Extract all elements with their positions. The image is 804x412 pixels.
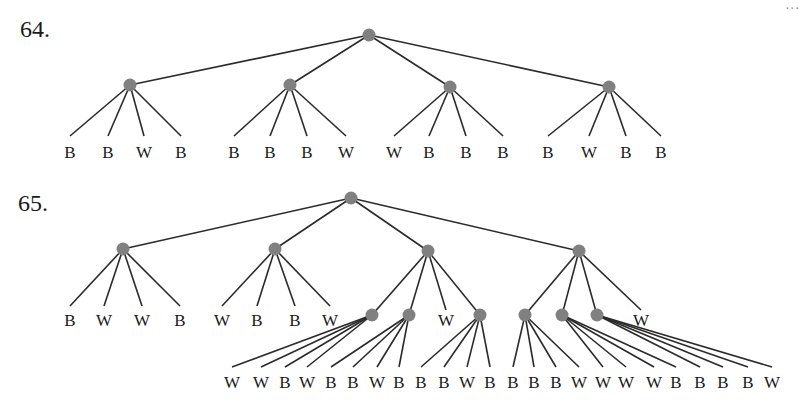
tree-node bbox=[345, 192, 358, 205]
tree-edge bbox=[369, 35, 609, 87]
page-corner-mark: ... bbox=[786, 0, 800, 12]
leaf-label: W bbox=[386, 144, 402, 161]
leaf-label: B bbox=[742, 374, 753, 391]
leaf-label: B bbox=[347, 374, 358, 391]
leaf-label: B bbox=[484, 374, 495, 391]
leaf-label: B bbox=[620, 144, 631, 161]
tree-edge bbox=[331, 315, 409, 367]
tree-edge bbox=[234, 85, 290, 136]
leaf-label: W bbox=[338, 144, 354, 161]
tree-edge bbox=[429, 87, 450, 136]
tree-edge bbox=[351, 198, 579, 251]
tree-edge bbox=[70, 85, 130, 136]
leaf-label: W bbox=[253, 374, 269, 391]
leaf-label: B bbox=[717, 374, 728, 391]
leaf-label: W bbox=[136, 144, 152, 161]
tree-edge bbox=[123, 249, 180, 306]
leaf-label: B bbox=[542, 144, 553, 161]
leaf-label: W bbox=[369, 374, 385, 391]
tree-edges bbox=[0, 0, 804, 412]
leaf-label: B bbox=[694, 374, 705, 391]
leaf-label: B bbox=[251, 312, 262, 329]
tree-node bbox=[269, 243, 282, 256]
leaf-label: W bbox=[633, 312, 649, 329]
tree-edge bbox=[108, 85, 130, 136]
leaf-label: B bbox=[289, 312, 300, 329]
leaf-label: B bbox=[415, 374, 426, 391]
tree-edge bbox=[480, 315, 490, 367]
leaf-label: B bbox=[102, 144, 113, 161]
leaf-label: B bbox=[550, 374, 561, 391]
tree-edge bbox=[372, 251, 428, 315]
tree-node bbox=[444, 81, 457, 94]
tree-node bbox=[363, 29, 376, 42]
tree-node bbox=[366, 309, 379, 322]
leaf-label: W bbox=[595, 374, 611, 391]
tree-edge bbox=[579, 251, 641, 310]
leaf-label: B bbox=[64, 312, 75, 329]
leaf-label: W bbox=[618, 374, 634, 391]
leaf-label: W bbox=[322, 312, 338, 329]
leaf-label: B bbox=[64, 144, 75, 161]
tree-edge bbox=[369, 35, 450, 87]
leaf-label: W bbox=[214, 312, 230, 329]
tree-edge bbox=[222, 249, 275, 306]
tree-edge bbox=[123, 198, 351, 249]
leaf-label: W bbox=[571, 374, 587, 391]
leaf-label: B bbox=[670, 374, 681, 391]
tree-edge bbox=[428, 251, 446, 310]
tree-edge bbox=[467, 315, 480, 367]
leaf-label: B bbox=[393, 374, 404, 391]
tree-node bbox=[603, 81, 616, 94]
tree-diagrams: ... 64.BBWBBBBWWBBBBWBB65.BWWBWBBWWWBWBB… bbox=[0, 0, 804, 412]
tree-edge bbox=[428, 251, 480, 315]
leaf-label: W bbox=[581, 144, 597, 161]
leaf-label: W bbox=[224, 374, 240, 391]
leaf-label: B bbox=[301, 144, 312, 161]
leaf-label: B bbox=[325, 374, 336, 391]
leaf-label: B bbox=[264, 144, 275, 161]
tree-node bbox=[519, 309, 532, 322]
tree-edge bbox=[513, 315, 525, 367]
leaf-label: W bbox=[459, 374, 475, 391]
leaf-label: B bbox=[507, 374, 518, 391]
tree-node bbox=[573, 245, 586, 258]
leaf-label: W bbox=[96, 312, 112, 329]
tree-node bbox=[117, 243, 130, 256]
tree-edge bbox=[70, 249, 123, 306]
leaf-label: B bbox=[655, 144, 666, 161]
leaf-label: W bbox=[646, 374, 662, 391]
tree-node bbox=[591, 309, 604, 322]
tree-edge bbox=[130, 35, 369, 85]
leaf-label: B bbox=[460, 144, 471, 161]
leaf-label: W bbox=[299, 374, 315, 391]
problem-number: 64. bbox=[20, 16, 50, 43]
leaf-label: W bbox=[438, 312, 454, 329]
tree-edge bbox=[275, 249, 330, 306]
leaf-label: B bbox=[174, 312, 185, 329]
tree-node bbox=[124, 79, 137, 92]
leaf-label: B bbox=[279, 374, 290, 391]
tree-node bbox=[556, 309, 569, 322]
leaf-label: B bbox=[497, 144, 508, 161]
tree-edge bbox=[104, 249, 123, 306]
tree-edge bbox=[275, 249, 295, 306]
leaf-label: W bbox=[134, 312, 150, 329]
leaf-label: W bbox=[764, 374, 780, 391]
tree-edge bbox=[275, 198, 351, 249]
problem-number: 65. bbox=[18, 190, 48, 217]
leaf-label: B bbox=[228, 144, 239, 161]
tree-node bbox=[422, 245, 435, 258]
leaf-label: B bbox=[438, 374, 449, 391]
tree-node bbox=[474, 309, 487, 322]
tree-edge bbox=[351, 198, 428, 251]
tree-node bbox=[403, 309, 416, 322]
tree-node bbox=[284, 79, 297, 92]
tree-edge bbox=[270, 85, 290, 136]
leaf-label: B bbox=[528, 374, 539, 391]
leaf-label: B bbox=[175, 144, 186, 161]
leaf-label: B bbox=[423, 144, 434, 161]
tree-edge bbox=[562, 315, 603, 367]
tree-edge bbox=[394, 87, 450, 136]
tree-edge bbox=[409, 251, 428, 315]
